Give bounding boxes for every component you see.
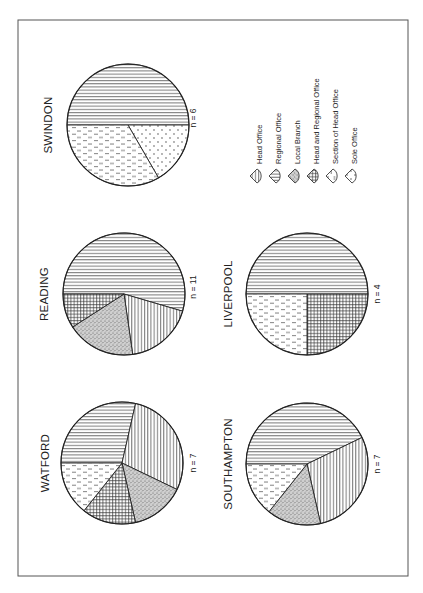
pie-slice-head-office	[67, 64, 189, 125]
pie-slice-head-office	[246, 233, 368, 294]
legend-label: Section of Head Office	[331, 89, 340, 164]
pie-slice-head-and-regional-office	[307, 294, 368, 355]
pie-title: SWINDON	[42, 97, 54, 154]
legend-label: Head and Regional Office	[312, 78, 321, 164]
sample-size-label: n = 7	[188, 453, 198, 472]
sample-size-label: n = 11	[188, 275, 198, 299]
legend-item-local-branch: Local Branch	[288, 120, 302, 183]
legend-label: Sole Office	[350, 127, 359, 164]
pie-title: SOUTHAMPTON	[222, 418, 234, 509]
sample-size-label: n = 6	[188, 108, 198, 127]
local-branch-swatch-icon	[288, 169, 299, 183]
regional-office-swatch-icon	[269, 169, 280, 183]
legend-label: Local Branch	[293, 120, 302, 164]
pie-watford: WATFORDn = 7	[39, 402, 198, 524]
pie-chart-canvas: SWINDONn = 6READINGn = 11WATFORDn = 7LIV…	[0, 0, 423, 593]
chart-figure: SWINDONn = 6READINGn = 11WATFORDn = 7LIV…	[0, 0, 423, 593]
pie-slice-section-of-head-office	[246, 294, 307, 355]
pie-swindon: SWINDONn = 6	[42, 64, 198, 186]
legend-item-section-of-head-office: Section of Head Office	[326, 89, 340, 183]
legend-label: Regional Office	[274, 113, 283, 164]
pie-southampton: SOUTHAMPTONn = 7	[222, 403, 382, 525]
legend-item-head-office: Head Office	[250, 125, 264, 183]
sample-size-label: n = 4	[372, 284, 382, 303]
pie-title: WATFORD	[39, 434, 51, 492]
pie-liverpool: LIVERPOOLn = 4	[222, 233, 382, 355]
pie-reading: READINGn = 11	[38, 233, 198, 355]
legend-item-sole-office: Sole Office	[345, 127, 359, 183]
legend-item-regional-office: Regional Office	[269, 113, 283, 183]
head-and-regional-office-swatch-icon	[307, 169, 318, 183]
pie-title: READING	[38, 267, 50, 321]
legend-label: Head Office	[255, 125, 264, 164]
legend-item-head-and-regional-office: Head and Regional Office	[307, 78, 321, 183]
sample-size-label: n = 7	[372, 454, 382, 473]
head-office-swatch-icon	[250, 169, 261, 183]
legend: Head OfficeRegional OfficeLocal BranchHe…	[250, 78, 359, 183]
pie-title: LIVERPOOL	[222, 260, 234, 327]
sole-office-swatch-icon	[345, 169, 356, 183]
section-of-head-office-swatch-icon	[326, 169, 337, 183]
